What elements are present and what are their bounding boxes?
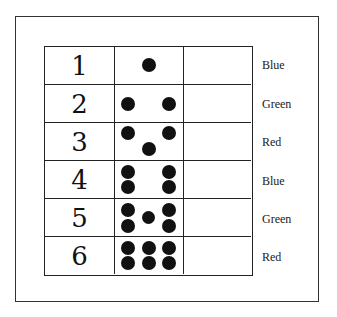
dot-icon [121,241,135,255]
table-row: 2 [45,84,251,122]
dots-cell [115,237,184,274]
dot-icon [142,142,156,156]
dot-icon [162,180,176,194]
dots-cell [115,161,184,198]
table-row: 1 [45,47,251,85]
table-row: 5 [45,198,251,237]
table-row: 4 [45,160,251,198]
number-cell: 5 [45,199,115,237]
empty-cell [184,85,251,122]
dot-icon [162,241,176,255]
dot-icon [162,219,176,233]
dot-icon [142,58,156,72]
dot-icon [121,219,135,233]
dot-icon [162,165,176,179]
dot-icon [142,211,155,224]
number-cell: 2 [45,85,115,122]
dot-icon [142,241,156,255]
number-cell: 4 [45,161,115,198]
dots-cell [115,199,184,237]
color-label: Blue [262,174,285,189]
dot-icon [121,165,135,179]
number-cell: 6 [45,237,115,274]
table-row: 6 [45,236,251,274]
dot-icon [121,203,135,217]
dots-cell [115,85,184,122]
dots-cell [115,123,184,161]
color-label: Green [262,97,291,112]
color-label: Red [262,250,281,265]
dice-table: 1 2 3 4 5 [44,46,253,276]
dot-icon [142,256,156,270]
dot-icon [162,203,176,217]
dot-icon [121,97,135,111]
empty-cell [184,199,251,237]
color-label: Blue [262,58,285,73]
empty-cell [184,161,251,198]
dots-cell [115,47,184,85]
table-row: 3 [45,122,251,161]
dot-icon [162,126,176,140]
color-label: Green [262,212,291,227]
empty-cell [184,237,251,274]
dot-icon [162,97,176,111]
dot-icon [121,256,135,270]
dot-icon [162,256,176,270]
dot-icon [121,180,135,194]
color-label: Red [262,135,281,150]
number-cell: 1 [45,47,115,85]
empty-cell [184,47,251,85]
empty-cell [184,123,251,161]
dot-icon [121,126,135,140]
number-cell: 3 [45,123,115,161]
